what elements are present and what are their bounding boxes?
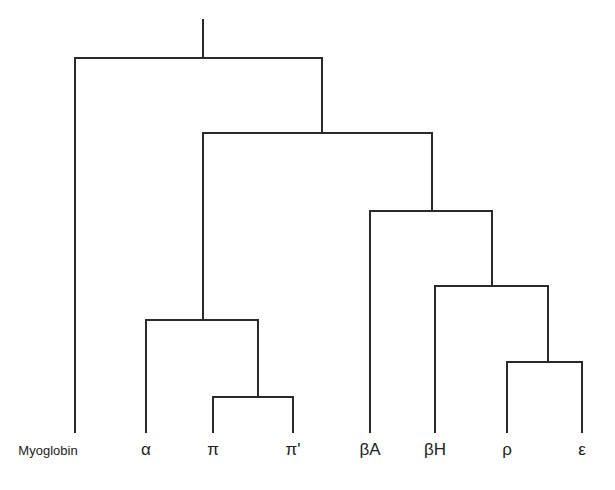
node-alpha-bar <box>146 320 258 432</box>
root-bar <box>75 58 322 432</box>
leaf-label-myoglobin: Myoglobin <box>18 443 77 458</box>
node-beta-bar <box>370 211 492 432</box>
leaf-label-beta-h: βH <box>424 440 446 460</box>
dendrogram <box>0 0 615 490</box>
leaf-label-alpha: α <box>141 440 151 460</box>
node-globin-bar <box>203 133 432 320</box>
node-rho-epsilon-bar <box>507 362 582 432</box>
node-pi-bar <box>213 397 293 432</box>
leaf-label-epsilon: ε <box>578 440 586 460</box>
leaf-label-pi-prime: π' <box>286 440 301 460</box>
leaf-label-rho: ρ <box>502 440 512 460</box>
node-betah-bar <box>435 286 548 432</box>
leaf-label-pi: π <box>207 440 219 460</box>
leaf-label-beta-a: βA <box>359 440 380 460</box>
